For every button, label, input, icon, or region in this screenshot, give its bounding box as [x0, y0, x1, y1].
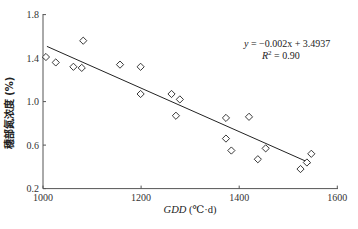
x-tick-label: 1200 [131, 192, 151, 203]
data-point-diamond [222, 135, 229, 142]
y-axis-title: 穗部氮浓度 (%) [3, 77, 15, 150]
y-tick-label: 0.6 [27, 140, 40, 151]
data-point-diamond [52, 59, 59, 66]
r-squared-label: R2 = 0.90 [261, 49, 300, 61]
x-tick-label: 1400 [229, 192, 249, 203]
data-point-diamond [172, 112, 179, 119]
regression-line [47, 46, 310, 163]
data-point-diamond [303, 159, 310, 166]
data-point-diamond [176, 96, 183, 103]
data-point-diamond [228, 147, 235, 154]
x-axis-title: GDD (℃·d) [164, 204, 217, 216]
y-tick-label: 1.8 [27, 9, 40, 20]
data-point-diamond [80, 37, 87, 44]
y-tick-label: 1.4 [27, 53, 40, 64]
data-point-diamond [116, 61, 123, 68]
x-tick-label: 1600 [327, 192, 347, 203]
data-point-diamond [222, 114, 229, 121]
data-point-diamond [78, 64, 85, 71]
data-point-diamond [137, 63, 144, 70]
data-point-diamond [297, 165, 304, 172]
data-point-diamond [308, 150, 315, 157]
data-point-diamond [70, 63, 77, 70]
data-point-diamond [168, 90, 175, 97]
scatter-chart: 0.20.61.01.41.8 1000120014001600 y = −0.… [0, 0, 358, 229]
data-point-diamond [262, 145, 269, 152]
y-tick-label: 1.0 [27, 96, 40, 107]
data-point-diamond [245, 113, 252, 120]
data-point-diamond [137, 90, 144, 97]
data-point-diamond [254, 156, 261, 163]
equation-label: y = −0.002x + 3.4937 [243, 38, 330, 49]
x-tick-label: 1000 [33, 192, 53, 203]
